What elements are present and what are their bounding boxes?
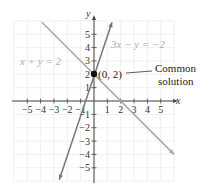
y-tick-label: −2 (79, 122, 90, 133)
y-axis-label: y (85, 8, 91, 19)
equation-label-x-plus-y: x + y = 2 (19, 55, 62, 67)
coordinate-plane: −5−4−3−2−112345−5−4−3−2−112345 x + y = 2… (0, 0, 209, 190)
y-tick-label: −4 (79, 149, 90, 160)
y-tick-label: 5 (85, 29, 90, 40)
x-axis-label: x (175, 95, 181, 106)
x-tick-label: −3 (49, 104, 60, 115)
y-tick-label: −5 (79, 162, 90, 173)
point-label: (0, 2) (98, 68, 122, 81)
equation-label-3x-minus-y: 3x − y = −2 (110, 38, 166, 50)
y-tick-label: 4 (85, 42, 90, 53)
x-tick-label: 2 (118, 104, 123, 115)
x-tick-label: −4 (35, 104, 46, 115)
y-tick-label: 3 (85, 55, 90, 66)
x-tick-label: −5 (22, 104, 33, 115)
intersection-point (91, 71, 97, 77)
leader-line (126, 71, 152, 73)
x-tick-label: −2 (62, 104, 73, 115)
annotation-common: Common (155, 62, 196, 74)
x-tick-label: 4 (145, 104, 150, 115)
y-tick-label: −3 (79, 136, 90, 147)
annotation-solution: solution (158, 75, 194, 87)
x-tick-label: 5 (158, 104, 163, 115)
x-tick-label: 1 (105, 104, 110, 115)
